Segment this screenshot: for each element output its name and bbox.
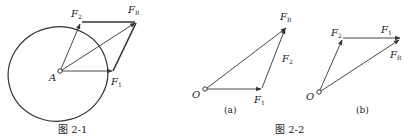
vector-f2-b (320, 40, 342, 90)
origin-o-label-a: O (192, 89, 200, 100)
caption-figure-2-2: 图 2-2 (275, 124, 304, 135)
caption-figure-2-1: 图 2-1 (58, 124, 87, 135)
panel-label-b: (b) (356, 105, 369, 115)
panel-label-a: (a) (224, 105, 236, 115)
figure-2-2a: O F1 F2 FR (a) (192, 11, 293, 115)
origin-o-marker-b (317, 90, 321, 94)
origin-o-marker-a (203, 87, 207, 91)
point-a-marker (58, 69, 62, 73)
label-f1: F1 (110, 76, 122, 88)
figure-2-1: A F2 FR F1 图 2-1 (0, 4, 140, 135)
label-f2: F2 (70, 8, 82, 20)
label-f1-a: F1 (253, 94, 265, 106)
vector-f2 (61, 24, 80, 69)
label-f1-b: F1 (380, 24, 392, 36)
label-fr-b: FR (389, 49, 402, 61)
label-fr-a: FR (279, 11, 292, 23)
label-f2-a: F2 (281, 53, 293, 65)
diagram-canvas: A F2 FR F1 图 2-1 O F1 F2 FR (a) O F2 F1 … (0, 0, 415, 138)
vector-fr-b (321, 40, 399, 91)
origin-o-label-b: O (306, 91, 314, 102)
label-fr: FR (127, 4, 140, 16)
point-a-label: A (48, 72, 56, 83)
figure-2-2b: O F2 F1 FR (b) (306, 24, 402, 115)
label-f2-b: F2 (330, 27, 342, 39)
rigid-body-ellipse (0, 16, 118, 133)
